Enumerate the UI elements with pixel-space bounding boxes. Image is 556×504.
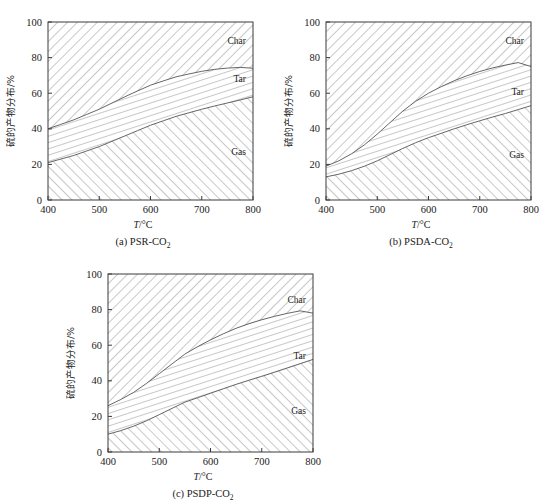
caption-b-sub: 2 <box>449 241 453 250</box>
series-label-gas-a: Gas <box>231 147 246 157</box>
chart-b-svg: 400500600700800020406080100 Char Tar Gas… <box>278 0 556 252</box>
series-label-char-b: Char <box>506 36 525 46</box>
chart-panel-c: 400500600700800020406080100 Char Tar Gas… <box>60 252 338 504</box>
x-tick-label: 600 <box>203 456 219 467</box>
series-label-tar-c: Tar <box>293 351 306 361</box>
x-tick-label: 700 <box>194 204 210 215</box>
caption-c-sub: 2 <box>230 493 234 502</box>
y-tick-label: 20 <box>32 159 43 170</box>
series-label-tar-b: Tar <box>511 87 524 97</box>
y-tick-label: 0 <box>37 195 42 206</box>
chart-panel-a: 400500600700800020406080100 Char Tar Gas… <box>0 0 278 252</box>
series-label-char-a: Char <box>228 36 247 46</box>
x-axis-title-c: T/°C <box>193 471 212 482</box>
y-axis-title-c: 硫的产物分布/% <box>65 327 76 399</box>
y-tick-label: 0 <box>97 447 102 458</box>
y-tick-label: 80 <box>92 304 103 315</box>
y-tick-label: 80 <box>310 52 321 63</box>
x-axis-title-unit-a: /°C <box>139 219 153 230</box>
y-axis-title-a: 硫的产物分布/% <box>5 75 16 147</box>
x-axis-title-unit-b: /°C <box>417 219 431 230</box>
y-tick-label: 60 <box>310 88 321 99</box>
y-tick-label: 60 <box>32 88 43 99</box>
y-tick-label: 0 <box>315 195 320 206</box>
x-tick-label: 500 <box>151 456 167 467</box>
x-tick-label: 800 <box>523 204 539 215</box>
y-tick-label: 100 <box>26 17 42 28</box>
caption-a-main: (a) PSR-CO <box>116 236 167 248</box>
caption-c-main: (c) PSDP-CO <box>172 488 230 500</box>
x-tick-label: 400 <box>318 204 334 215</box>
x-tick-label: 400 <box>100 456 116 467</box>
series-label-gas-b: Gas <box>509 150 524 160</box>
y-tick-label: 20 <box>92 411 103 422</box>
x-tick-label: 700 <box>472 204 488 215</box>
x-axis-title-a: T/°C <box>133 219 152 230</box>
x-axis-title-b: T/°C <box>411 219 430 230</box>
series-label-char-c: Char <box>288 295 307 305</box>
x-tick-label: 500 <box>91 204 107 215</box>
caption-b-main: (b) PSDA-CO <box>389 236 449 248</box>
y-tick-label: 60 <box>92 340 103 351</box>
y-tick-label: 80 <box>32 52 43 63</box>
x-tick-label: 700 <box>254 456 270 467</box>
chart-panel-b: 400500600700800020406080100 Char Tar Gas… <box>278 0 556 252</box>
chart-c-svg: 400500600700800020406080100 Char Tar Gas… <box>60 252 338 504</box>
caption-a-sub: 2 <box>167 241 171 250</box>
y-axis-title-b: 硫的产物分布/% <box>283 75 294 147</box>
y-tick-label: 100 <box>86 269 102 280</box>
y-tick-label: 40 <box>92 375 103 386</box>
x-tick-label: 800 <box>245 204 261 215</box>
series-label-gas-c: Gas <box>291 406 306 416</box>
y-tick-label: 40 <box>310 123 321 134</box>
x-tick-label: 400 <box>40 204 56 215</box>
y-tick-label: 100 <box>304 17 320 28</box>
caption-a: (a) PSR-CO2 <box>116 236 171 250</box>
y-tick-label: 20 <box>310 159 321 170</box>
caption-b: (b) PSDA-CO2 <box>389 236 453 250</box>
x-tick-label: 600 <box>143 204 159 215</box>
x-tick-label: 500 <box>369 204 385 215</box>
caption-c: (c) PSDP-CO2 <box>172 488 233 502</box>
figure-root: 400500600700800020406080100 Char Tar Gas… <box>0 0 556 504</box>
chart-a-svg: 400500600700800020406080100 Char Tar Gas… <box>0 0 278 252</box>
x-tick-label: 800 <box>305 456 321 467</box>
series-label-tar-a: Tar <box>233 74 246 84</box>
x-tick-label: 600 <box>421 204 437 215</box>
x-axis-title-unit-c: /°C <box>199 471 213 482</box>
y-tick-label: 40 <box>32 123 43 134</box>
